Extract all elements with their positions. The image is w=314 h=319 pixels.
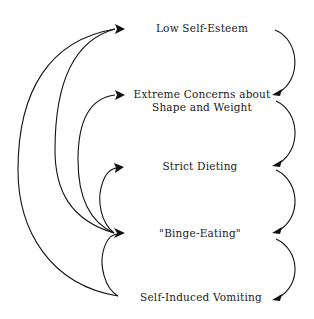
arrowhead-icon bbox=[115, 24, 125, 34]
arrow-vomiting-to-low-esteem bbox=[18, 29, 118, 296]
right-arrows bbox=[272, 30, 295, 301]
node-low-self-esteem: Low Self-Esteem bbox=[156, 22, 248, 35]
node-strict-dieting: Strict Dieting bbox=[162, 160, 237, 173]
left-arrows bbox=[18, 24, 125, 296]
node-extreme-concerns-line1: Extreme Concerns about bbox=[134, 88, 271, 101]
arrowhead-icon bbox=[114, 228, 125, 238]
arrow-dieting-to-binge bbox=[276, 170, 295, 231]
eating-disorder-cycle-diagram: Low Self-Esteem Extreme Concerns about S… bbox=[0, 0, 314, 319]
node-self-induced-vomiting: Self-Induced Vomiting bbox=[140, 291, 262, 304]
arrow-binge-to-concerns bbox=[78, 95, 115, 233]
node-extreme-concerns-line2: Shape and Weight bbox=[152, 101, 252, 114]
arrowhead-icon bbox=[272, 89, 282, 96]
arrowhead-icon bbox=[272, 160, 282, 167]
arrow-binge-to-dieting bbox=[100, 168, 116, 233]
arrow-binge-to-vomiting bbox=[276, 239, 295, 298]
arrowhead-icon bbox=[272, 294, 282, 301]
arrow-concerns-to-dieting bbox=[276, 101, 295, 164]
diagram-arrows bbox=[0, 0, 314, 319]
arrow-low-esteem-to-concerns bbox=[275, 30, 295, 93]
arrowhead-icon bbox=[272, 227, 282, 234]
arrowhead-icon bbox=[115, 90, 125, 100]
node-binge-eating: "Binge-Eating" bbox=[159, 227, 241, 240]
arrow-vomiting-to-binge bbox=[102, 234, 118, 296]
